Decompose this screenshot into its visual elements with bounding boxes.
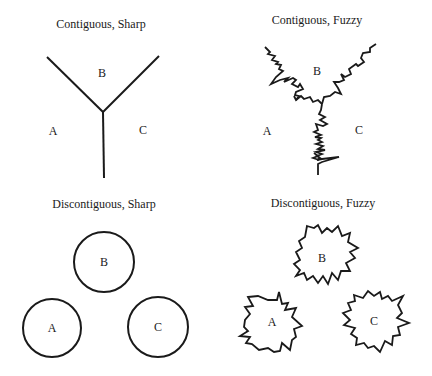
panel-contiguous-sharp: Contiguous, Sharp B A C: [47, 17, 159, 178]
region-label-b: B: [313, 64, 321, 78]
region-label-c: C: [370, 314, 378, 328]
boundary-types-diagram: Contiguous, Sharp B A C Contiguous, Fuzz…: [0, 0, 432, 376]
panel-discontiguous-sharp: Discontiguous, Sharp B A C: [23, 197, 188, 357]
panel-contiguous-fuzzy: Contiguous, Fuzzy B A C: [263, 13, 376, 175]
panel-title: Contiguous, Fuzzy: [272, 13, 363, 27]
region-label-a: A: [48, 321, 57, 335]
region-label-c: C: [139, 123, 147, 137]
region-label-b: B: [318, 251, 326, 265]
region-label-a: A: [268, 315, 277, 329]
region-label-a: A: [49, 124, 58, 138]
panel-title: Contiguous, Sharp: [56, 17, 145, 31]
region-label-c: C: [154, 320, 162, 334]
panel-discontiguous-fuzzy: Discontiguous, Fuzzy B A C: [240, 196, 409, 352]
region-label-b: B: [98, 66, 106, 80]
region-label-a: A: [263, 124, 272, 138]
panel-title: Discontiguous, Sharp: [52, 197, 155, 211]
region-label-b: B: [100, 255, 108, 269]
panel-title: Discontiguous, Fuzzy: [271, 196, 376, 210]
region-label-c: C: [355, 123, 363, 137]
